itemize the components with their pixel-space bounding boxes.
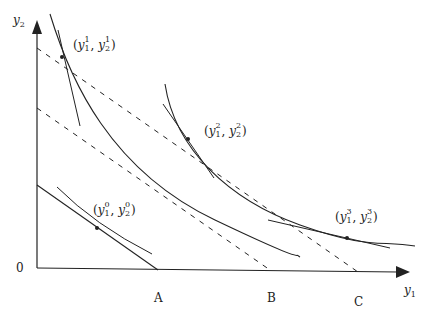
sup: 2 (215, 121, 220, 130)
comma: , (352, 210, 356, 224)
dashed-budget-line-c (37, 48, 358, 272)
point-0-dot (95, 226, 99, 230)
sup: 0 (125, 200, 130, 209)
paren-close: ) (242, 124, 247, 138)
y-axis-arrow-icon (32, 20, 42, 34)
sub: 2 (125, 209, 130, 218)
sup: 2 (236, 121, 241, 130)
intercept-label-b: B (267, 292, 276, 304)
x-axis-arrow-icon (396, 266, 410, 278)
x-axis-label-sub: 1 (411, 290, 416, 299)
label-y: y (98, 38, 105, 52)
point-label-3: (y31, y32) (335, 210, 378, 224)
x-axis-label: y1 (404, 284, 416, 299)
paren-close: ) (373, 210, 378, 224)
indifference-curve-0 (57, 187, 152, 254)
origin-label: 0 (16, 262, 24, 274)
sub: 2 (236, 130, 241, 139)
tangent-line-2 (163, 104, 214, 178)
sub: 1 (346, 216, 351, 225)
y-axis-label: y2 (13, 14, 25, 29)
comma: , (110, 203, 114, 217)
comma: , (221, 124, 225, 138)
y-axis-label-base: y (13, 13, 20, 27)
paren-close: ) (131, 203, 136, 217)
point-2-dot (186, 137, 190, 141)
point-3-dot (345, 236, 349, 240)
sub: 2 (105, 44, 110, 53)
comma: , (90, 38, 94, 52)
point-1-dot (60, 55, 64, 59)
sup: 1 (105, 35, 110, 44)
label-y: y (229, 124, 236, 138)
sup: 1 (84, 35, 89, 44)
label-y: y (209, 124, 216, 138)
sup: 3 (346, 207, 351, 216)
sup: 3 (367, 207, 372, 216)
x-axis-label-base: y (404, 283, 411, 297)
sub: 2 (367, 216, 372, 225)
label-y: y (78, 38, 85, 52)
intercept-label-c: C (354, 296, 363, 308)
sub: 1 (215, 130, 220, 139)
sup: 0 (104, 200, 109, 209)
paren-close: ) (111, 38, 116, 52)
label-y: y (98, 203, 105, 217)
sub: 1 (84, 44, 89, 53)
label-y: y (340, 210, 347, 224)
label-y: y (360, 210, 367, 224)
x-axis (37, 268, 398, 272)
intercept-label-a: A (154, 292, 163, 304)
y-axis-label-sub: 2 (20, 20, 25, 29)
point-label-2: (y21, y22) (204, 124, 247, 138)
point-label-1: (y11, y12) (73, 38, 116, 52)
diagram-canvas (0, 0, 429, 322)
point-label-0: (y01, y02) (93, 203, 136, 217)
label-y: y (118, 203, 125, 217)
sub: 1 (104, 209, 109, 218)
